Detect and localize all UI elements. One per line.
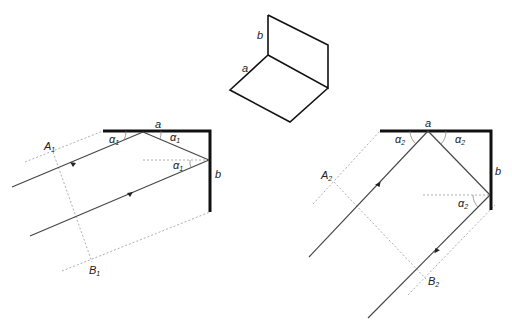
- label-alpha2: α2: [395, 133, 405, 146]
- label-a-right: a: [425, 117, 431, 129]
- angle-arc: [473, 195, 478, 207]
- guide-line: [62, 212, 210, 271]
- right-reflection-diagram: a b A2 B2 α2 α2 α2: [309, 117, 501, 318]
- incident-ray: [12, 132, 143, 187]
- guide-line: [408, 205, 495, 295]
- label-b-left: b: [215, 168, 221, 180]
- outgoing-ray: [368, 195, 490, 318]
- label-alpha1: α1: [170, 131, 180, 144]
- left-reflection-diagram: a b A1 B1 α1 α1 α1: [12, 118, 221, 277]
- label-A1: A1: [43, 140, 55, 153]
- incident-ray: [309, 131, 428, 257]
- label-alpha1: α1: [173, 159, 183, 172]
- wavefront-A2-B2: [334, 182, 427, 280]
- label-alpha2: α2: [455, 133, 465, 146]
- label-A2: A2: [320, 169, 332, 182]
- label-a-left: a: [155, 118, 161, 130]
- vertical-plane-b: [268, 15, 328, 88]
- angle-arc: [190, 160, 191, 168]
- wavefront-A1-B1: [53, 152, 92, 262]
- diagram-canvas: b a a b A1 B1 α1 α1 α1: [0, 0, 512, 329]
- label-B1: B1: [89, 264, 100, 277]
- guide-line: [25, 131, 103, 162]
- label-alpha2: α2: [458, 197, 468, 210]
- label-b-top: b: [257, 29, 263, 41]
- angle-arc: [441, 131, 446, 144]
- label-b-right: b: [495, 165, 501, 177]
- arrow-icon: [70, 162, 76, 167]
- angle-arc: [410, 131, 416, 144]
- label-alpha1: α1: [109, 133, 119, 146]
- corner-reflector-3d: b a: [230, 15, 328, 122]
- label-B2: B2: [428, 275, 439, 288]
- label-a-top: a: [242, 62, 248, 74]
